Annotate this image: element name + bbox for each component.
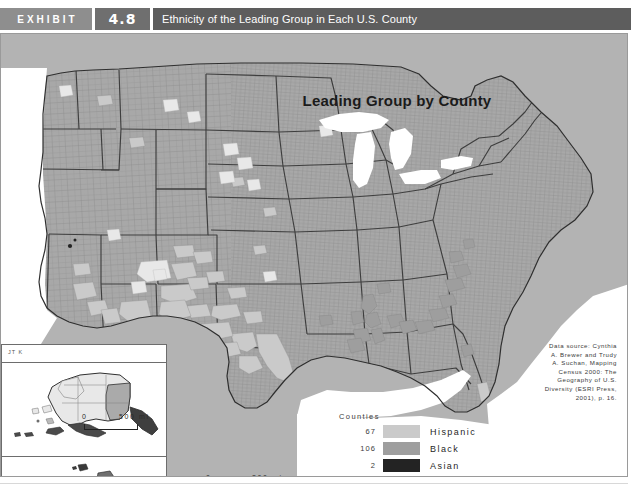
scalebar-alaska: 0 500 mi [82,413,166,435]
legend-count-hispanic: 67 [337,427,383,436]
exhibit-number: 4.8 [95,8,150,30]
legend-swatch-american-indian [383,476,420,477]
map-legend: Counties 67 Hispanic 106 Black 2 Asian 3… [337,412,595,477]
scalebar-main-length: 200 mi [252,474,283,477]
data-source-note: Data source: Cynthia A. Brewer and Trudy… [514,342,617,402]
legend-count-asian: 2 [337,461,383,470]
exhibit-title: Ethnicity of the Leading Group in Each U… [153,8,631,30]
scalebar-alaska-length: 500 mi [119,413,150,420]
legend-label-black: Black [430,444,459,454]
source-line-3: A. Suchan, Mapping [514,359,617,368]
alaska-shape [2,363,166,456]
map-title: Leading Group by County [297,92,497,109]
scalebar-alaska-bar [84,424,138,430]
legend-row-american-indian: 30 American Indian/Alaska Native [337,475,595,477]
source-line-5: Geography of U.S. [514,376,617,385]
alaska-inset: 0 500 mi [1,362,167,457]
legend-swatch-asian [383,459,420,472]
source-line-6: Diversity (ESRI Press, [514,385,617,394]
legend-label-hispanic: Hispanic [430,427,476,437]
page-footer-rule [0,483,628,484]
hawaii-shape [2,457,166,477]
legend-label-asian: Asian [430,461,460,471]
map-credit-strip: JT K [1,344,167,363]
map-credit-initials: JT K [8,349,23,355]
source-line-1: Data source: Cynthia [514,342,617,351]
source-line-2: A. Brewer and Trudy [514,351,617,360]
legend-row-asian: 2 Asian [337,458,595,473]
legend-swatch-black [383,442,420,455]
legend-header: Counties [339,412,595,421]
hawaii-inset: 0 200 mi [1,456,167,477]
source-line-7: 2001), p. 16. [514,394,617,403]
exhibit-header: EXHIBIT 4.8 Ethnicity of the Leading Gro… [0,8,631,30]
map-figure: Leading Group by County Data source: Cyn… [0,33,628,477]
scalebar-main-zero: 0 [206,474,212,477]
scalebar-main: 0 200 mi [206,474,336,477]
legend-swatch-hispanic [383,425,420,438]
legend-row-hispanic: 67 Hispanic [337,424,595,439]
legend-count-black: 106 [337,444,383,453]
source-line-4: Census 2000: The [514,368,617,377]
legend-row-black: 106 Black [337,441,595,456]
exhibit-label: EXHIBIT [0,8,92,30]
scalebar-alaska-zero: 0 [82,413,88,420]
